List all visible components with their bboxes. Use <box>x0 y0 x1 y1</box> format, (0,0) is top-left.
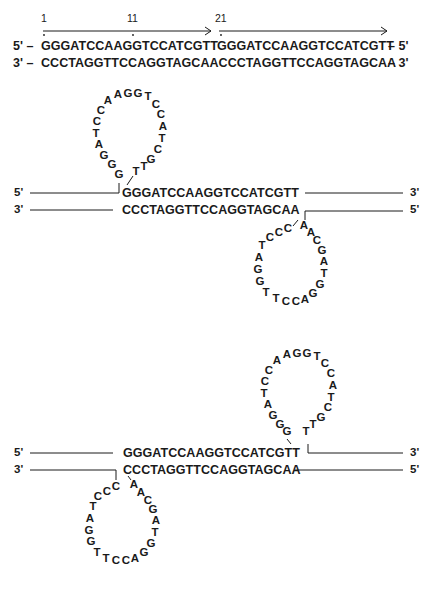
nt: G <box>269 410 278 422</box>
nt: A <box>283 349 291 361</box>
nt: T <box>93 547 100 559</box>
nt: T <box>313 351 320 363</box>
nt: T <box>309 419 316 431</box>
nt: A <box>264 399 272 411</box>
nt: C <box>103 486 111 498</box>
nt: G <box>147 538 156 550</box>
nt: G <box>303 348 312 360</box>
nt: C <box>122 555 130 567</box>
nt: T <box>151 527 158 539</box>
nt: C <box>112 555 120 567</box>
nt: A <box>329 380 337 392</box>
nt: A <box>152 515 160 527</box>
nt: A <box>273 355 281 367</box>
nt: T <box>89 501 96 513</box>
nt: T <box>102 553 109 565</box>
nt: G <box>317 412 326 424</box>
nt: C <box>112 481 120 493</box>
nt: T <box>302 426 309 438</box>
nt: C <box>265 365 273 377</box>
c2-backbone-lines <box>0 0 438 589</box>
nt: C <box>261 376 269 388</box>
nt: A <box>86 513 94 525</box>
nt: A <box>130 479 138 491</box>
nt: A <box>131 553 139 565</box>
nt: G <box>293 348 302 360</box>
nt: T <box>260 388 267 400</box>
nt: C <box>327 368 335 380</box>
